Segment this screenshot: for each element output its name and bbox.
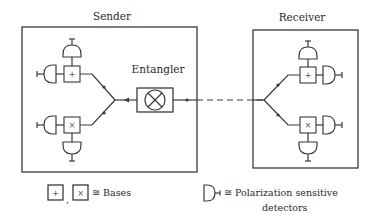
sender-box xyxy=(22,27,197,172)
legend-bases: + , × ≅ Bases xyxy=(48,185,131,205)
dot-marker-icon xyxy=(185,98,188,101)
entangler-label: Entangler xyxy=(132,63,186,75)
legend-detectors: ≅ Polarization sensitive detectors xyxy=(204,185,338,213)
legend-plus-symbol: + xyxy=(52,189,59,198)
detector-icon xyxy=(204,185,215,201)
dot-marker-icon xyxy=(102,85,105,88)
receiver-fork xyxy=(253,75,300,125)
cross-basis-symbol: × xyxy=(305,121,312,130)
detector-icon xyxy=(63,142,81,154)
plus-basis-symbol: + xyxy=(305,71,312,80)
cross-basis-symbol: × xyxy=(69,121,76,130)
dot-marker-icon xyxy=(276,113,279,116)
sender-fork xyxy=(80,74,115,125)
quantum-key-distribution-diagram: Sender Receiver Entangler + xyxy=(0,0,379,219)
legend-cross-symbol: × xyxy=(77,189,84,198)
detector-icon xyxy=(44,65,56,83)
dot-marker-icon xyxy=(276,83,279,86)
sender-cross-basis: × xyxy=(37,116,81,161)
detector-icon xyxy=(299,47,317,59)
detector-icon xyxy=(299,142,317,154)
detector-icon xyxy=(63,45,81,57)
receiver-cross-basis: × xyxy=(299,116,342,161)
legend-detectors-line1: ≅ Polarization sensitive xyxy=(224,187,338,198)
circled-cross-icon xyxy=(145,90,165,110)
detector-icon xyxy=(323,116,335,134)
legend-detectors-line2: detectors xyxy=(262,202,308,213)
sender-title: Sender xyxy=(93,10,132,22)
arrow-left-icon xyxy=(124,98,129,103)
dot-marker-icon xyxy=(102,111,105,114)
entangler-box xyxy=(137,88,173,112)
sender-plus-basis: + xyxy=(37,39,81,83)
legend-bases-text: ≅ Bases xyxy=(92,187,131,198)
legend-comma: , xyxy=(66,194,69,205)
receiver-plus-basis: + xyxy=(299,41,342,84)
detector-icon xyxy=(323,66,335,84)
detector-icon xyxy=(44,116,56,134)
receiver-title: Receiver xyxy=(279,11,327,23)
plus-basis-symbol: + xyxy=(69,70,76,79)
